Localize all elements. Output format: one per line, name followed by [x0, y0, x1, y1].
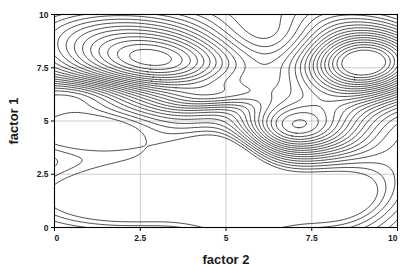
y-tick-label: 10: [39, 10, 49, 20]
x-tick-label: 10: [388, 233, 398, 243]
contour-plot-figure: 02.557.510 02.557.510 factor 2 factor 1: [0, 0, 417, 275]
y-tick-label: 2.5: [37, 169, 49, 179]
x-tick-label: 2.5: [134, 233, 146, 243]
y-tick-label: 0: [44, 223, 49, 233]
x-axis-title: factor 2: [203, 252, 250, 267]
y-tick-label: 5: [44, 116, 49, 126]
x-tick-label: 7.5: [306, 233, 318, 243]
x-tick-label: 5: [224, 233, 229, 243]
y-axis-title: factor 1: [6, 98, 21, 145]
x-tick-label: 0: [55, 233, 60, 243]
y-tick-label: 7.5: [37, 63, 49, 73]
